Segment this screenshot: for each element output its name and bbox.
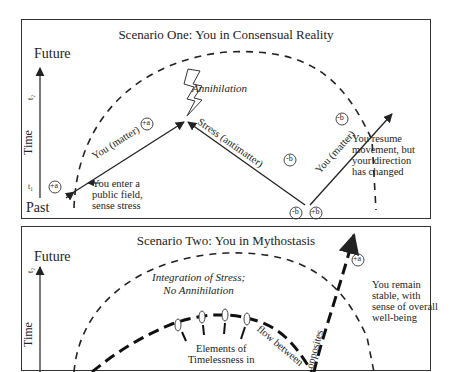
past-label: Past	[26, 200, 49, 216]
future-label: Future	[34, 46, 71, 62]
minus-b-badge-2: -b	[337, 113, 344, 122]
stable-direction-arrow	[314, 235, 354, 372]
plus-a-badge: +a	[353, 254, 361, 263]
t1-label: t₁	[28, 182, 33, 191]
time-axis-label: Time	[21, 130, 36, 155]
plus-b-badge: +b	[311, 207, 320, 216]
time-axis-label: Time	[21, 322, 36, 347]
scenario-one-drawing	[22, 20, 432, 220]
elements-label: Elements of Timelessness in	[188, 343, 254, 365]
integration-label: Integration of Stress; No Annihilation	[152, 271, 245, 297]
enter-note: You enter a public field, sense stress	[92, 178, 143, 211]
t2-label: t₂	[26, 268, 35, 273]
annihilation-label: Annihilation	[192, 82, 247, 94]
minus-b-badge-3: -b	[292, 207, 299, 216]
scenario-two-panel: Scenario Two: You in Mythostasis Future …	[21, 226, 431, 371]
resume-note: You resume movement, but your direction …	[352, 133, 415, 177]
plus-a-badge-2: +a	[142, 118, 150, 127]
minus-b-badge: -b	[286, 154, 293, 163]
t2-label: t₂	[26, 95, 35, 100]
remain-note: You remain stable, with sense of overall…	[372, 279, 438, 323]
plus-a-badge: +a	[50, 181, 58, 190]
scenario-one-panel: Scenario One: You in Consensual Reality …	[21, 19, 431, 219]
future-label: Future	[34, 249, 71, 265]
